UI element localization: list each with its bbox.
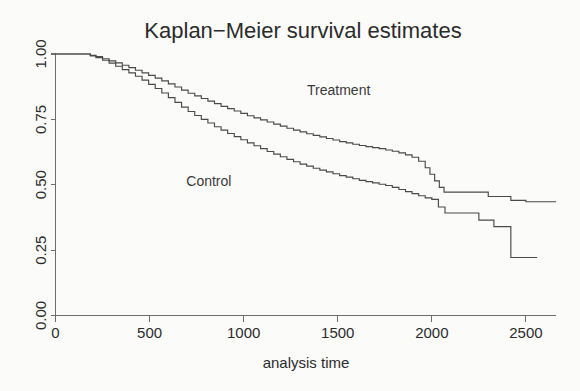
- chart-screenshot: Kaplan−Meier survival estimates 0.000.25…: [0, 0, 580, 391]
- x-tick-label: 500: [137, 324, 162, 341]
- y-tick-label: 0.50: [32, 170, 49, 199]
- x-tick-label: 2500: [509, 324, 542, 341]
- x-tick-label: 1000: [227, 324, 260, 341]
- y-tick-label: 1.00: [32, 39, 49, 68]
- x-axis-label: analysis time: [263, 354, 350, 371]
- curve-annotation-treatment: Treatment: [307, 82, 370, 98]
- page-title: Kaplan−Meier survival estimates: [144, 18, 461, 43]
- chart-background: [0, 0, 580, 391]
- curve-annotation-control: Control: [186, 173, 231, 189]
- y-tick-label: 0.00: [32, 301, 49, 330]
- y-tick-label: 0.75: [32, 105, 49, 134]
- x-tick-label: 1500: [321, 324, 354, 341]
- x-tick-label: 0: [51, 324, 59, 341]
- y-tick-label: 0.25: [32, 236, 49, 265]
- x-tick-label: 2000: [415, 324, 448, 341]
- kaplan-meier-chart: Kaplan−Meier survival estimates 0.000.25…: [0, 0, 580, 391]
